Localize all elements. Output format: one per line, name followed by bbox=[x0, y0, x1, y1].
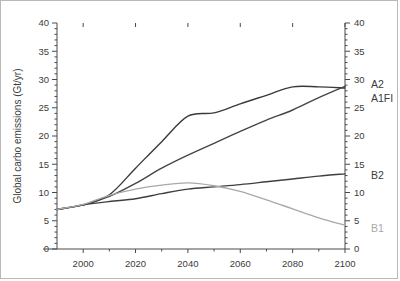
y-tick-label-right: 5 bbox=[354, 215, 359, 226]
x-tick-label: 2040 bbox=[177, 258, 198, 269]
y-tick-label-left: 5 bbox=[44, 215, 49, 226]
y-tick-label-left: 25 bbox=[38, 102, 49, 113]
x-axis: 200020202040206020802100 bbox=[43, 23, 356, 269]
y-tick-label-left: 15 bbox=[38, 159, 49, 170]
y-tick-label-right: 40 bbox=[354, 17, 365, 28]
emissions-line-chart: 0510152025303540 0510152025303540 200020… bbox=[1, 1, 399, 280]
y-tick-label-right: 25 bbox=[354, 102, 365, 113]
x-tick-label: 2060 bbox=[230, 258, 251, 269]
y-tick-label-right: 35 bbox=[354, 46, 365, 57]
y-axis-left: 0510152025303540 bbox=[38, 17, 57, 254]
y-tick-label-left: 10 bbox=[38, 187, 49, 198]
series-label-a2: A2 bbox=[371, 78, 384, 90]
series-line-b2 bbox=[57, 174, 345, 210]
x-tick-label: 2020 bbox=[125, 258, 146, 269]
y-tick-label-right: 15 bbox=[354, 159, 365, 170]
y-tick-label-right: 20 bbox=[354, 130, 365, 141]
y-axis-title: Global carbo emissions (Gt/yr) bbox=[12, 68, 23, 203]
y-tick-label-right: 10 bbox=[354, 187, 365, 198]
y-axis-right: 0510152025303540 bbox=[345, 17, 365, 254]
series-label-b2: B2 bbox=[371, 169, 384, 181]
x-tick-label: 2000 bbox=[73, 258, 94, 269]
series-lines bbox=[57, 86, 345, 225]
x-tick-label: 2100 bbox=[334, 258, 355, 269]
series-line-a1fi bbox=[57, 86, 345, 209]
y-tick-label-left: 30 bbox=[38, 74, 49, 85]
series-line-b1 bbox=[57, 183, 345, 225]
chart-figure: 0510152025303540 0510152025303540 200020… bbox=[0, 0, 398, 279]
series-label-b1: B1 bbox=[371, 222, 384, 234]
y-tick-label-left: 40 bbox=[38, 17, 49, 28]
series-labels: A2A1FIB2B1 bbox=[371, 78, 393, 233]
y-tick-label-right: 0 bbox=[354, 243, 359, 254]
y-tick-label-left: 20 bbox=[38, 130, 49, 141]
y-tick-label-right: 30 bbox=[354, 74, 365, 85]
series-line-a2 bbox=[57, 86, 345, 209]
series-label-a1fi: A1FI bbox=[371, 92, 393, 104]
y-axis-title-text: Global carbo emissions (Gt/yr) bbox=[12, 68, 23, 203]
x-tick-label: 2080 bbox=[282, 258, 303, 269]
y-tick-label-left: 35 bbox=[38, 46, 49, 57]
